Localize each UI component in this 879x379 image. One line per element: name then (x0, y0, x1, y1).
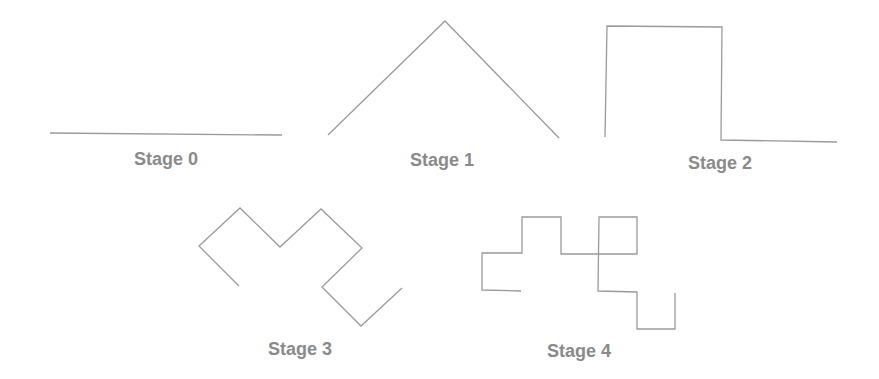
stage-4-curve (482, 217, 675, 329)
stage-4-label: Stage 4 (547, 341, 611, 362)
stage-3-label: Stage 3 (268, 339, 332, 360)
stage-2-label: Stage 2 (688, 153, 752, 174)
stage-3-curve (199, 208, 402, 326)
stage-2-curve (605, 26, 837, 142)
fractal-stages-diagram (0, 0, 879, 379)
stage-1-label: Stage 1 (410, 150, 474, 171)
stage-0-label: Stage 0 (134, 149, 198, 170)
stage-1-curve (328, 21, 559, 138)
stage-0-curve (50, 133, 282, 135)
